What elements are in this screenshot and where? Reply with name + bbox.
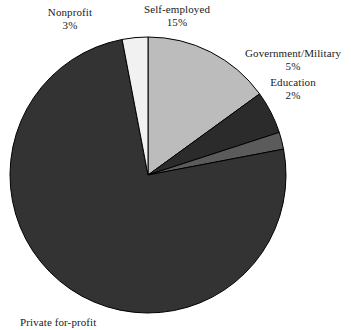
pie-label-education-name: Education	[236, 76, 350, 89]
pie-label-government-military-percent: 5%	[236, 60, 350, 73]
pie-label-self-employed-percent: 15%	[119, 16, 235, 29]
pie-label-nonprofit: Nonprofit 3%	[22, 6, 118, 32]
pie-label-nonprofit-percent: 3%	[22, 19, 118, 32]
pie-chart: Nonprofit 3% Self-employed 15% Governmen…	[0, 0, 351, 330]
pie-label-private-for-profit-name: Private for-profit	[20, 316, 160, 329]
pie-label-government-military-name: Government/Military	[236, 47, 350, 60]
pie-label-private-for-profit: Private for-profit	[20, 316, 160, 329]
pie-label-education-percent: 2%	[236, 89, 350, 102]
pie-label-education: Education 2%	[236, 76, 350, 102]
pie-label-government-military: Government/Military 5%	[236, 47, 350, 73]
pie-label-nonprofit-name: Nonprofit	[22, 6, 118, 19]
pie-label-self-employed: Self-employed 15%	[119, 3, 235, 29]
pie-label-self-employed-name: Self-employed	[119, 3, 235, 16]
